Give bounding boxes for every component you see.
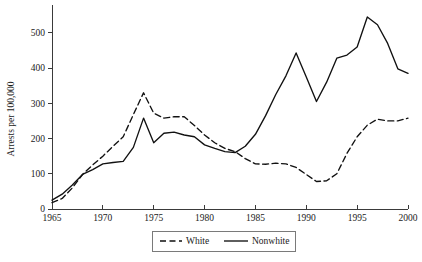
x-tick-label: 2000 bbox=[399, 213, 418, 223]
series-line-nonwhite bbox=[52, 17, 408, 200]
line-chart: 0100200300400500196519701975198019851990… bbox=[0, 0, 422, 262]
x-tick-label: 1980 bbox=[195, 213, 214, 223]
x-tick-label: 1975 bbox=[144, 213, 163, 223]
x-tick-label: 1990 bbox=[297, 213, 316, 223]
chart-figure: 0100200300400500196519701975198019851990… bbox=[0, 0, 422, 262]
y-tick-label: 200 bbox=[31, 134, 46, 144]
y-tick-label: 500 bbox=[31, 28, 46, 38]
legend-label-white: White bbox=[186, 236, 209, 246]
x-tick-label: 1965 bbox=[43, 213, 62, 223]
y-tick-label: 300 bbox=[31, 99, 46, 109]
x-tick-label: 1985 bbox=[246, 213, 265, 223]
x-tick-label: 1970 bbox=[93, 213, 112, 223]
x-tick-label: 1995 bbox=[348, 213, 367, 223]
legend-label-nonwhite: Nonwhite bbox=[252, 236, 289, 246]
series-line-white bbox=[52, 93, 408, 203]
y-axis-title: Arrests per 100,000 bbox=[6, 81, 16, 156]
y-tick-label: 400 bbox=[31, 63, 46, 73]
y-tick-label: 100 bbox=[31, 169, 46, 179]
